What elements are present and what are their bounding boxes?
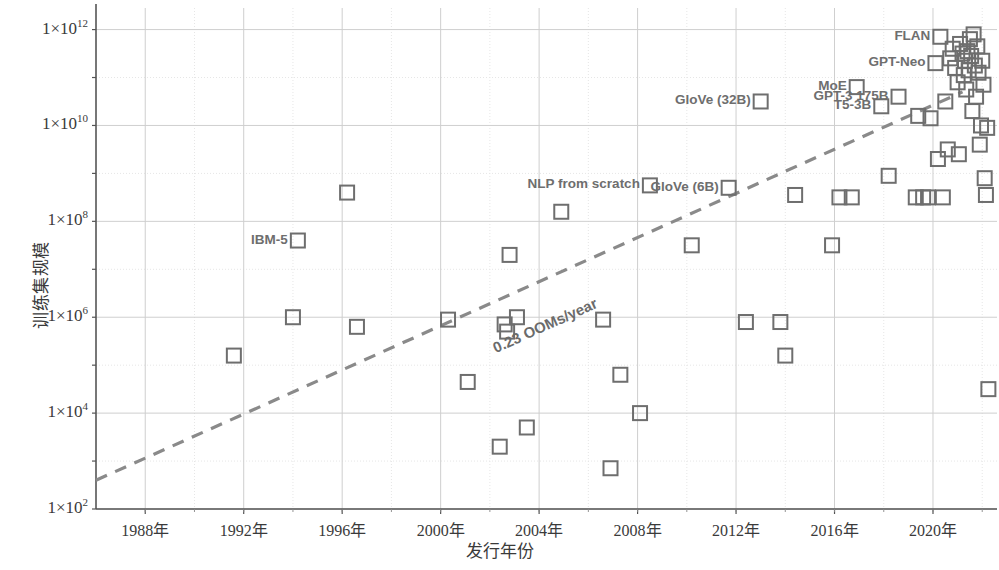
data-point-marker [596,313,610,327]
data-point-marker [825,238,839,252]
x-tick-label: 2016年 [785,517,885,541]
y-tick-label: 1×104 [0,400,88,422]
data-point-marker [604,461,618,475]
x-tick-label: 2000年 [391,517,491,541]
x-tick-label: 2004年 [489,517,589,541]
data-point-marker [981,382,995,396]
x-tick-label: 2020年 [883,517,983,541]
data-point-marker [227,349,241,363]
x-tick-label: 1996年 [292,517,392,541]
data-point-marker [520,420,534,434]
x-tick-label: 2008年 [588,517,688,541]
x-tick-label: 2012年 [686,517,786,541]
point-label: GPT-Neo [0,54,925,69]
data-point-marker [493,440,507,454]
data-point-marker [788,188,802,202]
y-tick-label: 1×1010 [0,112,88,134]
point-label: GloVe (6B) [0,179,719,194]
x-tick-label: 1992年 [194,517,294,541]
data-point-marker [936,190,950,204]
data-point-marker [503,248,517,262]
data-point-marker [613,368,627,382]
data-point-marker [979,188,993,202]
data-point-marker [461,375,475,389]
data-point-marker [350,320,364,334]
y-tick-label: 1×102 [0,496,88,518]
point-label: GPT-3 175B [0,88,889,103]
y-tick-label: 1×106 [0,304,88,326]
data-point-marker [973,138,987,152]
trendline [96,92,963,480]
data-point-marker [892,90,906,104]
data-point-marker [554,205,568,219]
point-label: IBM-5 [0,232,288,247]
data-point-marker [722,181,736,195]
data-point-marker [928,56,942,70]
point-label: FLAN [0,28,930,43]
y-tick-label: 1×108 [0,208,88,230]
chart-figure: 训练集规模 发行年份 1×10121×10101×1081×1061×1041×… [0,0,999,570]
data-point-marker [965,104,979,118]
x-tick-label: 1988年 [95,517,195,541]
